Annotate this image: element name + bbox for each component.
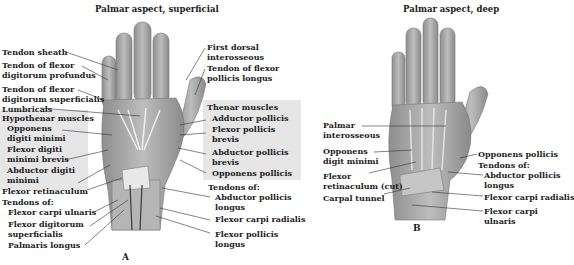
panel-a-letter: A: [122, 252, 129, 262]
label-tendon-fdp-2: digitorum profundus: [2, 71, 96, 81]
label-opponens-pollicis-a: Opponens pollicis: [206, 169, 292, 179]
label-tendon-fpl-2: pollicis longus: [207, 74, 272, 84]
label-fcu: Flexor carpi ulnaris: [2, 208, 96, 218]
label-fdmb-2: minimi brevis: [1, 155, 69, 165]
label-palmaris-longus: Palmaris longus: [2, 241, 80, 251]
label-opponens-dm-b-2: digit minimi: [323, 157, 379, 167]
panel-b-title: Palmar aspect, deep: [403, 4, 499, 14]
label-thenar-muscles: Thenar muscles: [207, 103, 278, 113]
label-adductor-pollicis: Adductor pollicis: [206, 114, 289, 124]
label-fcr-b: Flexor carpi radialis: [478, 193, 574, 203]
label-flexor-ret-cut-2: retinaculum (cut): [323, 182, 403, 192]
panel-b-letter: B: [413, 223, 421, 233]
label-fpl-a-2: longus: [209, 240, 245, 250]
label-fcu-b-2: ulnaris: [478, 217, 516, 227]
label-apb-2: brevis: [206, 158, 239, 168]
label-fds-tendon-2: superficialis: [2, 230, 63, 240]
hand-a-superficial-illustration: [102, 22, 206, 230]
label-fcr-a: Flexor carpi radialis: [209, 215, 305, 225]
label-tendon-sheath: Tendon sheath: [2, 48, 68, 58]
label-adm-2: minimi: [1, 176, 39, 186]
label-apl-b-2: longus: [478, 181, 514, 191]
label-flexor-retinaculum: Flexor retinaculum: [2, 187, 88, 197]
label-opponens-pollicis-b: Opponens pollicis: [478, 150, 558, 160]
label-opponens-dm-2: digiti minimi: [1, 134, 66, 144]
label-fpb-2: brevis: [206, 135, 239, 145]
label-palmar-interosseous-2: interosseous: [323, 131, 380, 141]
label-first-dorsal-2: interosseous: [207, 53, 264, 63]
panel-a-title: Palmar aspect, superficial: [95, 4, 219, 14]
label-apl-a-2: longus: [209, 203, 245, 213]
label-carpal-tunnel: Carpal tunnel: [323, 194, 385, 204]
